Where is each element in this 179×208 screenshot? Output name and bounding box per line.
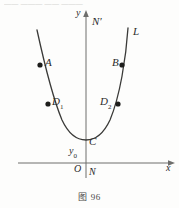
origin-label: O xyxy=(74,164,81,174)
point-d2-label: D2 xyxy=(100,96,111,110)
point-d2-dot xyxy=(115,101,120,106)
y-intercept-subscript: 0 xyxy=(73,152,77,160)
vertex-label-c: C xyxy=(89,136,96,147)
y-axis xyxy=(83,10,89,178)
curve-label-l: L xyxy=(133,26,139,37)
point-d2-letter: D xyxy=(100,95,108,107)
point-d1-label: D1 xyxy=(52,96,63,110)
y-intercept-label: y0 xyxy=(69,146,77,159)
point-a-label: A xyxy=(45,57,52,68)
point-b-dot xyxy=(119,62,124,67)
point-d1-dot xyxy=(45,101,50,106)
x-axis xyxy=(18,160,175,166)
point-b-label: B xyxy=(112,57,119,68)
point-d1-letter: D xyxy=(52,95,60,107)
point-d1-subscript: 1 xyxy=(60,103,64,111)
y-axis-label: y xyxy=(76,8,80,18)
y-axis-arrowhead xyxy=(83,10,89,17)
point-a-dot xyxy=(37,62,42,67)
figure-caption: 图 96 xyxy=(0,190,179,203)
point-n-label: N xyxy=(89,167,96,177)
x-axis-label: x xyxy=(166,163,170,173)
point-d2-subscript: 2 xyxy=(108,103,112,111)
point-n-prime-label: N′ xyxy=(92,16,102,27)
parabola-curve xyxy=(37,28,128,140)
figure-96-container: —— ——— —— ——— y x N′ N O L A B D1 D2 C y… xyxy=(0,0,179,208)
